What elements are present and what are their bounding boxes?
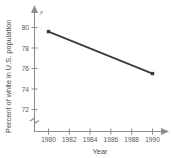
- y-tick-label-74: 74: [22, 86, 30, 93]
- y-tick-label-78: 78: [22, 45, 30, 52]
- y-axis-variable-label: y: [39, 8, 44, 16]
- line-chart-figure: 80 78 76 74 72 1980 1982 1984 1986 1988 …: [0, 0, 171, 158]
- x-tick-label-1980: 1980: [41, 136, 56, 143]
- y-tick-label-80: 80: [22, 24, 30, 31]
- y-axis-break-icon: [30, 119, 39, 124]
- y-axis-title: Percent of white in U.S. population: [4, 20, 13, 133]
- data-series-line: [49, 32, 153, 74]
- y-tick-label-72: 72: [22, 106, 30, 113]
- x-tick-label-1984: 1984: [83, 136, 98, 143]
- y-axis-arrow-icon: [31, 5, 38, 13]
- x-tick-label-1988: 1988: [124, 136, 139, 143]
- x-tick-label-1990: 1990: [145, 136, 160, 143]
- x-axis-title: Year: [93, 147, 108, 156]
- x-tick-label-1986: 1986: [104, 136, 119, 143]
- x-axis-arrow-icon: [161, 128, 169, 135]
- data-point-1990: [151, 72, 154, 75]
- data-point-1980: [47, 30, 50, 33]
- x-tick-label-1982: 1982: [62, 136, 77, 143]
- y-tick-label-76: 76: [22, 65, 30, 72]
